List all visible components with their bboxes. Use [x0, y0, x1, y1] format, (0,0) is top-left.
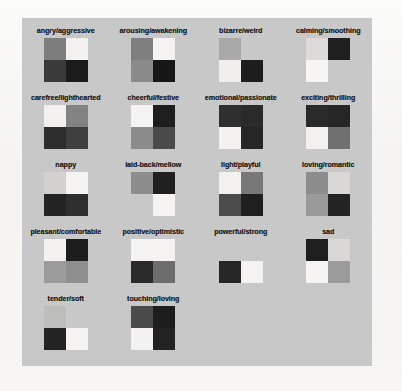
swatch-top-left	[44, 38, 66, 60]
swatch-bottom-right	[66, 127, 88, 149]
swatch-block	[44, 306, 88, 350]
palette-cell-bizarre-weird[interactable]: bizarre/weird	[197, 26, 285, 93]
palette-label: cheerful/festive	[128, 93, 179, 102]
swatch-bottom-left	[306, 194, 328, 216]
palette-label: nappy	[55, 160, 76, 169]
palette-label: loving/romantic	[302, 160, 354, 169]
palette-cell-light-playful[interactable]: light/playful	[197, 160, 285, 227]
swatch-top-right	[66, 239, 88, 261]
swatch-bottom-right	[66, 60, 88, 82]
swatch-bottom-left	[44, 60, 66, 82]
palette-label: emotional/passionate	[205, 93, 277, 102]
swatch-block	[306, 105, 350, 149]
palette-cell-powerful-strong[interactable]: powerful/strong	[197, 227, 285, 294]
palette-label: pleasant/comfortable	[30, 227, 101, 236]
swatch-bottom-left	[44, 127, 66, 149]
swatch-bottom-left	[306, 127, 328, 149]
swatch-top-right	[66, 172, 88, 194]
swatch-block	[306, 172, 350, 216]
swatch-bottom-right	[241, 261, 263, 283]
swatch-top-left	[219, 239, 241, 261]
palette-label: positive/optimistic	[122, 227, 184, 236]
palette-label: calming/smoothing	[296, 26, 361, 35]
swatch-bottom-right	[153, 194, 175, 216]
swatch-top-left	[131, 105, 153, 127]
swatch-top-left	[131, 306, 153, 328]
swatch-bottom-left	[219, 194, 241, 216]
swatch-block	[219, 239, 263, 283]
swatch-block	[219, 105, 263, 149]
swatch-bottom-right	[328, 127, 350, 149]
swatch-block	[306, 239, 350, 283]
swatch-block	[44, 38, 88, 82]
palette-cell-positive-optimistic[interactable]: positive/optimistic	[110, 227, 198, 294]
swatch-top-left	[306, 239, 328, 261]
swatch-bottom-right	[153, 127, 175, 149]
swatch-bottom-right	[153, 328, 175, 350]
palette-cell-emotional-passionate[interactable]: emotional/passionate	[197, 93, 285, 160]
swatch-bottom-left	[131, 261, 153, 283]
swatch-top-left	[44, 306, 66, 328]
palette-label: arousing/awakening	[119, 26, 187, 35]
swatch-bottom-left	[219, 261, 241, 283]
swatch-bottom-right	[66, 261, 88, 283]
palette-label: exciting/thrilling	[301, 93, 355, 102]
swatch-top-left	[131, 38, 153, 60]
swatch-bottom-right	[328, 194, 350, 216]
swatch-bottom-left	[219, 127, 241, 149]
swatch-top-right	[66, 105, 88, 127]
palette-cell-touching-loving[interactable]: touching/loving	[110, 294, 198, 361]
swatch-block	[131, 38, 175, 82]
swatch-block	[44, 239, 88, 283]
palette-label: laid-back/mellow	[125, 160, 181, 169]
swatch-top-left	[131, 239, 153, 261]
swatch-bottom-right	[241, 127, 263, 149]
palette-cell-calming-smoothing[interactable]: calming/smoothing	[285, 26, 373, 93]
swatch-block	[131, 306, 175, 350]
palette-cell-angry-aggressive[interactable]: angry/aggressive	[22, 26, 110, 93]
swatch-bottom-right	[153, 60, 175, 82]
swatch-bottom-left	[131, 194, 153, 216]
swatch-top-right	[153, 38, 175, 60]
swatch-block	[131, 172, 175, 216]
palette-grid: angry/aggressivearousing/awakeningbizarr…	[22, 18, 372, 366]
swatch-top-right	[328, 38, 350, 60]
swatch-bottom-left	[44, 328, 66, 350]
swatch-block	[44, 172, 88, 216]
swatch-bottom-left	[131, 127, 153, 149]
swatch-bottom-left	[131, 60, 153, 82]
palette-cell-tender-soft[interactable]: tender/soft	[22, 294, 110, 361]
swatch-bottom-left	[306, 261, 328, 283]
palette-panel: angry/aggressivearousing/awakeningbizarr…	[22, 18, 372, 366]
palette-cell-cheerful-festive[interactable]: cheerful/festive	[110, 93, 198, 160]
swatch-bottom-right	[328, 60, 350, 82]
palette-cell-nappy[interactable]: nappy	[22, 160, 110, 227]
swatch-top-right	[153, 239, 175, 261]
palette-label: angry/aggressive	[37, 26, 95, 35]
swatch-bottom-right	[153, 261, 175, 283]
swatch-top-right	[328, 105, 350, 127]
palette-label: sad	[322, 227, 334, 236]
swatch-top-left	[306, 105, 328, 127]
swatch-bottom-right	[241, 194, 263, 216]
swatch-block	[219, 172, 263, 216]
swatch-bottom-right	[66, 328, 88, 350]
swatch-top-left	[44, 239, 66, 261]
swatch-bottom-right	[66, 194, 88, 216]
swatch-top-left	[131, 172, 153, 194]
swatch-top-right	[66, 38, 88, 60]
swatch-top-left	[44, 105, 66, 127]
palette-cell-carefree-lighthearted[interactable]: carefree/lighthearted	[22, 93, 110, 160]
palette-label: tender/soft	[48, 294, 84, 303]
swatch-bottom-left	[44, 194, 66, 216]
swatch-top-right	[328, 239, 350, 261]
swatch-top-right	[241, 38, 263, 60]
palette-cell-laid-back-mellow[interactable]: laid-back/mellow	[110, 160, 198, 227]
swatch-top-left	[219, 172, 241, 194]
palette-cell-arousing-awakening[interactable]: arousing/awakening	[110, 26, 198, 93]
palette-cell-sad[interactable]: sad	[285, 227, 373, 294]
palette-cell-exciting-thrilling[interactable]: exciting/thrilling	[285, 93, 373, 160]
palette-cell-loving-romantic[interactable]: loving/romantic	[285, 160, 373, 227]
swatch-bottom-right	[328, 261, 350, 283]
palette-cell-pleasant-comfortable[interactable]: pleasant/comfortable	[22, 227, 110, 294]
